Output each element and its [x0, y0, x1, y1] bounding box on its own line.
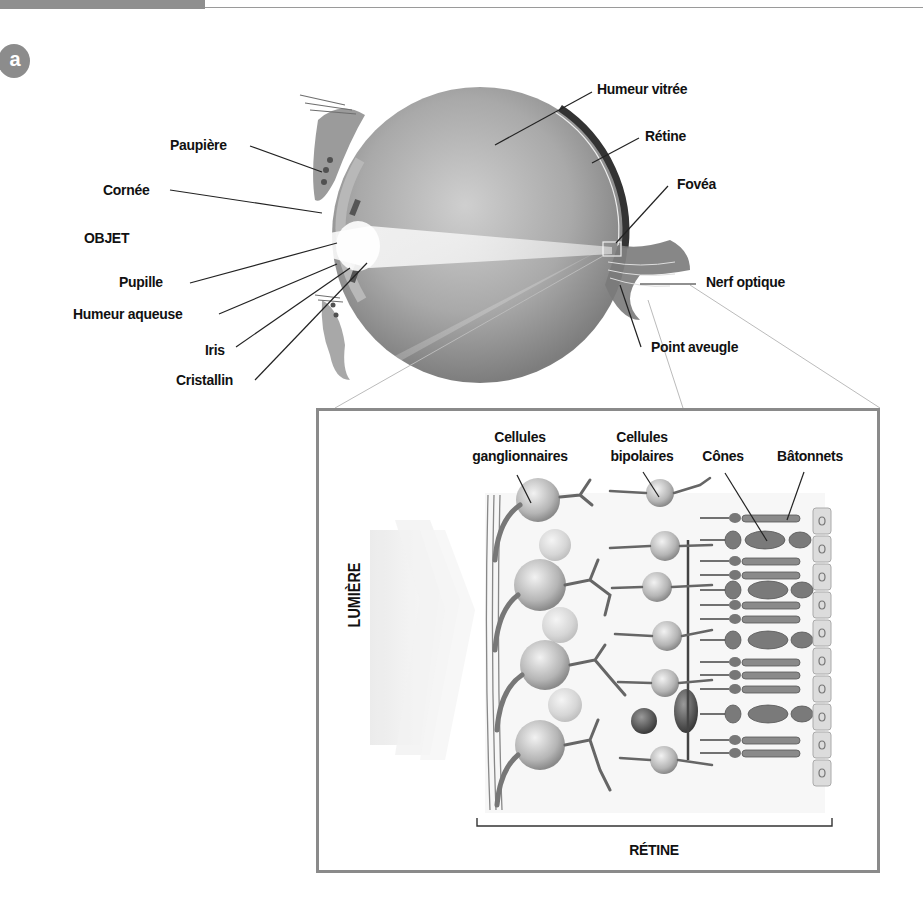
label-cellules-ganglionnaires: Cellules ganglionnaires [457, 427, 583, 465]
label-cones-text: Cônes [692, 446, 755, 465]
label-point-aveugle: Point aveugle [651, 338, 738, 356]
label-fovea: Fovéa [677, 175, 716, 193]
label-batonnets: Bâtonnets [770, 427, 851, 465]
eyelid-lower [315, 295, 350, 380]
label-retine: Rétine [645, 127, 686, 145]
label-paupiere: Paupière [170, 136, 227, 154]
label-humeur-aqueuse: Humeur aqueuse [73, 305, 182, 323]
label-objet: OBJET [84, 229, 129, 247]
label-batonnets-text: Bâtonnets [770, 446, 851, 465]
label-cellules-ganglionnaires-line2: ganglionnaires [457, 446, 583, 465]
label-cornee: Cornée [103, 181, 149, 199]
label-cellules-bipolaires-line2: bipolaires [597, 446, 687, 465]
label-cellules-bipolaires-line1: Cellules [597, 427, 687, 446]
label-humeur-vitree: Humeur vitrée [597, 80, 687, 98]
retina-inset-frame [316, 408, 880, 873]
label-lumiere: LUMIÈRE [346, 555, 364, 636]
label-cellules-ganglionnaires-line1: Cellules [457, 427, 583, 446]
label-iris: Iris [205, 341, 225, 359]
label-nerf-optique: Nerf optique [706, 273, 785, 291]
label-retine-bracket: RÉTINE [609, 840, 699, 859]
label-pupille: Pupille [119, 273, 163, 291]
label-cristallin: Cristallin [176, 371, 233, 389]
label-cellules-bipolaires: Cellules bipolaires [597, 427, 687, 465]
label-cones: Cônes [692, 427, 755, 465]
